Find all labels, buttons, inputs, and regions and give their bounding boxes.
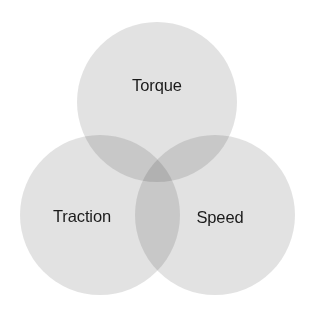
venn-label-speed: Speed <box>196 209 243 226</box>
venn-label-traction: Traction <box>53 208 111 225</box>
venn-diagram: Torque Traction Speed <box>0 0 314 311</box>
venn-label-torque: Torque <box>132 77 182 94</box>
venn-circles-graphic <box>0 0 314 311</box>
